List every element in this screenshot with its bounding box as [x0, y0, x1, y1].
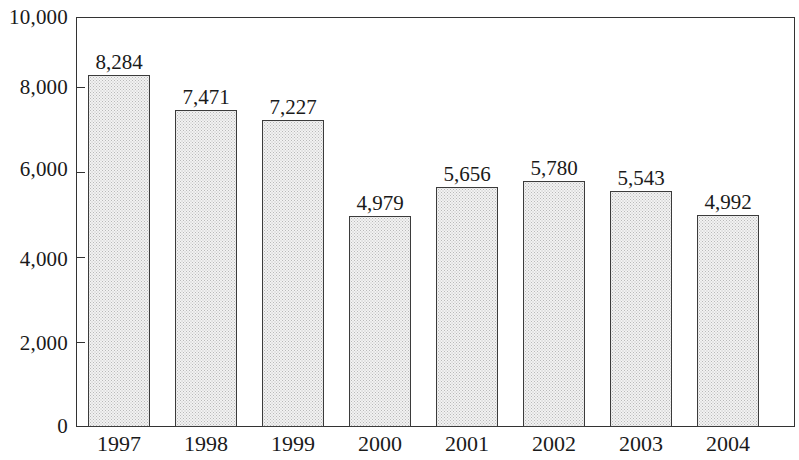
x-axis-tick-label: 1999	[262, 432, 324, 456]
y-axis-tick-label: 0	[57, 416, 68, 437]
bar-2003	[610, 191, 672, 427]
y-axis-tick-label: 8,000	[20, 77, 68, 98]
y-axis-tick-label: 4,000	[20, 249, 68, 270]
bar-value-label: 7,471	[175, 87, 237, 108]
x-axis-tick-label: 2003	[610, 432, 672, 456]
y-axis-tick-label: 10,000	[9, 7, 68, 28]
bar-value-label: 5,780	[523, 158, 585, 179]
bar-2004	[697, 215, 759, 427]
x-axis-tick-label: 2000	[349, 432, 411, 456]
bar-chart: 10,000 8,000 6,000 4,000 2,000 0 8,284 7…	[0, 0, 799, 460]
bar-value-label: 4,992	[697, 192, 759, 213]
y-axis-tick-mark	[76, 342, 85, 343]
bar-2002	[523, 181, 585, 427]
bar-2000	[349, 216, 411, 427]
bar-value-label: 5,656	[436, 164, 498, 185]
bar-value-label: 5,543	[610, 168, 672, 189]
x-axis-tick-label: 1998	[175, 432, 237, 456]
y-axis-tick-mark	[76, 257, 85, 258]
bar-2001	[436, 187, 498, 427]
y-axis-tick-label: 2,000	[20, 333, 68, 354]
y-axis-tick-mark	[76, 172, 85, 173]
bar-1998	[175, 110, 237, 427]
bar-value-label: 7,227	[262, 97, 324, 118]
y-axis-tick-mark	[76, 87, 85, 88]
y-axis-tick-label: 6,000	[20, 159, 68, 180]
x-axis-tick-label: 1997	[88, 432, 150, 456]
x-axis-tick-label: 2004	[697, 432, 759, 456]
x-axis-tick-label: 2002	[523, 432, 585, 456]
bar-1999	[262, 120, 324, 427]
x-axis-tick-label: 2001	[436, 432, 498, 456]
bar-1997	[88, 75, 150, 427]
bar-value-label: 8,284	[88, 52, 150, 73]
bar-value-label: 4,979	[349, 193, 411, 214]
